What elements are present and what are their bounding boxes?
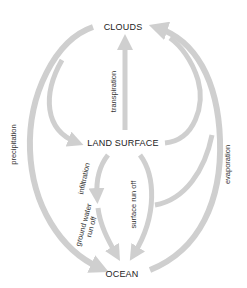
label-surface-run-off: surface run off: [129, 181, 138, 229]
water-cycle-diagram: CLOUDS LAND SURFACE OCEAN precipitation …: [0, 0, 247, 288]
node-land-surface: LAND SURFACE: [87, 138, 158, 148]
infiltration-arrow: [97, 155, 108, 196]
label-precipitation: precipitation: [9, 124, 18, 164]
node-clouds: CLOUDS: [104, 22, 143, 32]
label-transpiration: transpiration: [109, 71, 118, 112]
precipitation-arrow-to-land: [49, 60, 76, 142]
node-ocean: OCEAN: [105, 269, 138, 279]
ground-water-runoff-arrow: [98, 208, 116, 254]
evaporation-arrow-from-runoff: [155, 135, 212, 205]
label-evaporation: evaporation: [223, 145, 232, 184]
